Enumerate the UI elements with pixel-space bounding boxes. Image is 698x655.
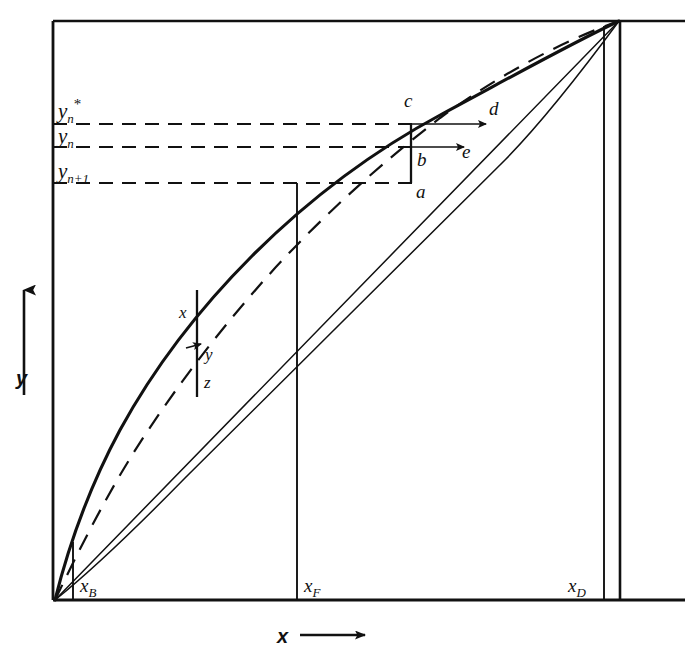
y-axis-label: y	[15, 367, 28, 389]
y-tick-label-yn: yn	[56, 124, 74, 151]
curve-group	[55, 21, 619, 600]
mccabe-thiele-diagram: yn* yn yn+1 xB xF xD c d b	[0, 0, 698, 655]
x-axis-label: x	[276, 625, 289, 647]
x-tick-labels: xB xF xD	[79, 575, 586, 600]
y-tick-label-yn-star: yn*	[56, 96, 81, 126]
y-tick-labels: yn* yn yn+1	[56, 96, 89, 186]
figure-root: yn* yn yn+1 xB xF xD c d b	[0, 0, 698, 655]
point-label-b: b	[417, 149, 427, 170]
y-tick-label-yn-plus-1: yn+1	[56, 159, 89, 186]
point-labels: c d b e a x y z	[178, 90, 499, 392]
x-tick-label-xD: xD	[567, 575, 586, 600]
point-label-x: x	[178, 303, 187, 322]
y-level-gridlines	[53, 124, 412, 183]
point-label-z: z	[203, 373, 211, 392]
point-label-c: c	[404, 90, 413, 111]
mid-tick-group	[186, 290, 201, 397]
x-tick-label-xF: xF	[303, 575, 321, 600]
x-composition-lines	[73, 26, 604, 600]
axis-name-labels: y x	[15, 367, 289, 647]
diagonal-chord	[55, 21, 619, 600]
arrow-to-y-point	[186, 344, 201, 348]
point-label-e: e	[462, 141, 470, 162]
point-label-a: a	[416, 181, 426, 202]
plot-frame	[53, 21, 685, 600]
point-label-y: y	[203, 345, 213, 364]
point-label-d: d	[489, 98, 499, 119]
x-tick-label-xB: xB	[79, 575, 96, 600]
